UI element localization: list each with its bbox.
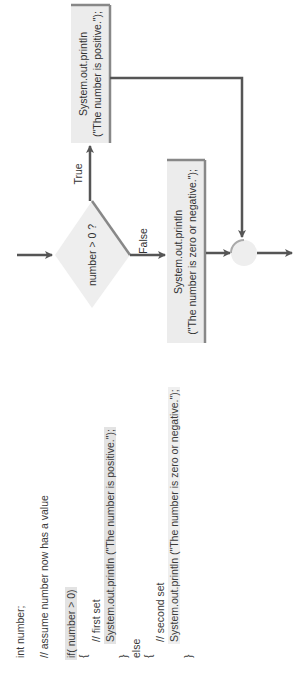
false-box-line1: System.out.println — [172, 210, 184, 294]
figure-canvas: int number; // assume number now has a v… — [0, 0, 307, 686]
false-label: False — [137, 228, 149, 254]
decision-diamond: number > 0 ? — [55, 201, 130, 308]
false-branch-arrow: False — [130, 228, 165, 255]
true-branch-arrow: True — [72, 146, 90, 201]
true-box-line2: ("The number is positive."); — [91, 11, 103, 137]
decision-label: number > 0 ? — [86, 224, 98, 286]
true-action-box: System.out.println ("The number is posit… — [71, 5, 110, 143]
true-box-line1: System.out.println — [77, 32, 89, 116]
flowchart: number > 0 ? True System.out.println ("T… — [0, 0, 307, 686]
false-action-box: System.out.println ("The number is zero … — [167, 160, 205, 343]
false-box-line2: ("The number is zero or negative."); — [186, 169, 198, 335]
merge-connector-circle — [231, 240, 257, 266]
true-label: True — [72, 163, 84, 184]
